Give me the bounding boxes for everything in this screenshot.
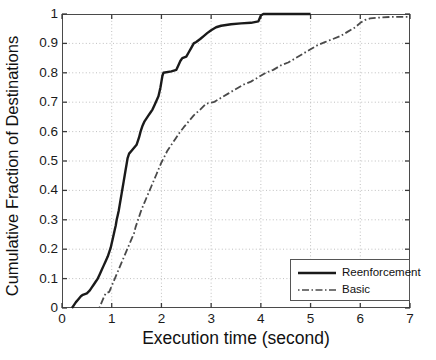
legend: Reenforcement Basic — [290, 259, 410, 301]
legend-line-solid — [296, 267, 338, 279]
y-tick-label: 0.4 — [26, 184, 58, 198]
legend-label-reenforcement: Reenforcement — [342, 267, 421, 279]
legend-entry-reenforcement: Reenforcement — [291, 264, 409, 281]
y-tick-label: 0.6 — [26, 125, 58, 139]
chart-canvas — [0, 0, 436, 360]
y-axis-label-wrapper: Cumulative Fraction of Destinations — [4, 16, 26, 316]
y-axis-label: Cumulative Fraction of Destinations — [4, 16, 21, 316]
x-tick-label: 5 — [296, 312, 326, 326]
x-tick-label: 6 — [345, 312, 375, 326]
x-tick-label: 7 — [395, 312, 425, 326]
y-tick-label: 0.9 — [26, 37, 58, 51]
y-tick-label: 1 — [26, 7, 58, 21]
y-tick-label: 0.5 — [26, 154, 58, 168]
y-tick-label: 0.8 — [26, 66, 58, 80]
legend-entry-basic: Basic — [291, 281, 409, 298]
y-tick-label: 0.1 — [26, 272, 58, 286]
y-tick-label: 0.7 — [26, 95, 58, 109]
y-tick-label: 0.2 — [26, 242, 58, 256]
x-tick-label: 2 — [146, 312, 176, 326]
x-tick-label: 3 — [196, 312, 226, 326]
y-tick-label: 0.3 — [26, 213, 58, 227]
legend-line-dashdot — [296, 284, 338, 296]
x-tick-label: 1 — [97, 312, 127, 326]
legend-label-basic: Basic — [342, 284, 370, 296]
x-tick-label: 4 — [246, 312, 276, 326]
chart-figure: 00.10.20.30.40.50.60.70.80.91 01234567 E… — [0, 0, 436, 360]
x-tick-label: 0 — [47, 312, 77, 326]
x-axis-label: Execution time (second) — [62, 329, 410, 347]
